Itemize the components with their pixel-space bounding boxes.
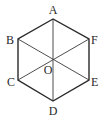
center-label-o: O [44, 63, 53, 77]
vertex-label-f: F [91, 33, 98, 47]
vertex-label-d: D [49, 104, 58, 118]
hexagon-diagonals [18, 19, 89, 101]
vertex-label-e: E [91, 75, 98, 89]
hexagon-diagram: A B C D E F O [0, 0, 107, 126]
vertex-label-c: C [7, 75, 15, 89]
hexagon-figure: A B C D E F O [0, 0, 107, 126]
vertex-label-a: A [49, 3, 58, 17]
vertex-label-b: B [6, 33, 14, 47]
